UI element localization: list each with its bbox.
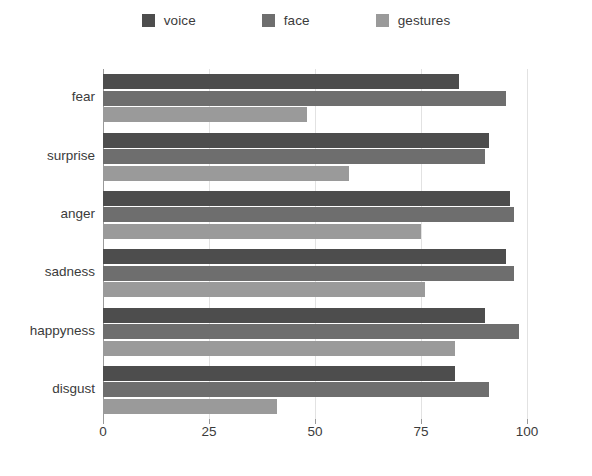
legend-swatch-gestures xyxy=(376,14,389,27)
plot-area xyxy=(103,69,527,419)
bar-anger-face xyxy=(103,207,514,222)
bar-surprise-gestures xyxy=(103,166,349,181)
y-label-disgust: disgust xyxy=(7,381,95,396)
legend-label-gestures: gestures xyxy=(398,14,451,28)
bar-fear-voice xyxy=(103,74,459,89)
bar-sadness-gestures xyxy=(103,282,425,297)
bar-group-happyness xyxy=(103,308,527,356)
bar-group-sadness xyxy=(103,249,527,297)
bar-fear-face xyxy=(103,91,506,106)
y-label-fear: fear xyxy=(7,89,95,104)
y-label-happyness: happyness xyxy=(7,323,95,338)
bar-group-fear xyxy=(103,74,527,122)
legend-swatch-face xyxy=(262,14,275,27)
gridline-100 xyxy=(527,69,528,419)
y-axis-labels: fearsurpriseangersadnesshappynessdisgust xyxy=(0,69,95,419)
x-label-100: 100 xyxy=(516,424,539,439)
bar-disgust-face xyxy=(103,382,489,397)
legend-label-voice: voice xyxy=(164,14,196,28)
bar-sadness-face xyxy=(103,266,514,281)
bar-happyness-face xyxy=(103,324,519,339)
x-label-25: 25 xyxy=(201,424,216,439)
x-axis-labels: 0255075100 xyxy=(103,424,527,448)
legend-item-face: face xyxy=(262,14,310,28)
y-label-anger: anger xyxy=(7,206,95,221)
bar-happyness-voice xyxy=(103,308,485,323)
bar-anger-voice xyxy=(103,191,510,206)
bar-chart: voice face gestures fearsurpriseangersad… xyxy=(0,0,592,476)
y-label-sadness: sadness xyxy=(7,264,95,279)
legend-item-voice: voice xyxy=(142,14,196,28)
bar-surprise-voice xyxy=(103,133,489,148)
legend-label-face: face xyxy=(284,14,310,28)
bar-surprise-face xyxy=(103,149,485,164)
y-label-surprise: surprise xyxy=(7,148,95,163)
x-label-50: 50 xyxy=(307,424,322,439)
bar-group-anger xyxy=(103,191,527,239)
bar-sadness-voice xyxy=(103,249,506,264)
legend-swatch-voice xyxy=(142,14,155,27)
x-label-75: 75 xyxy=(413,424,428,439)
bar-group-surprise xyxy=(103,133,527,181)
bar-group-disgust xyxy=(103,366,527,414)
bar-happyness-gestures xyxy=(103,341,455,356)
x-label-0: 0 xyxy=(99,424,107,439)
bar-anger-gestures xyxy=(103,224,421,239)
legend-item-gestures: gestures xyxy=(376,14,451,28)
bar-disgust-gestures xyxy=(103,399,277,414)
bar-fear-gestures xyxy=(103,107,307,122)
bar-disgust-voice xyxy=(103,366,455,381)
chart-legend: voice face gestures xyxy=(0,14,592,28)
